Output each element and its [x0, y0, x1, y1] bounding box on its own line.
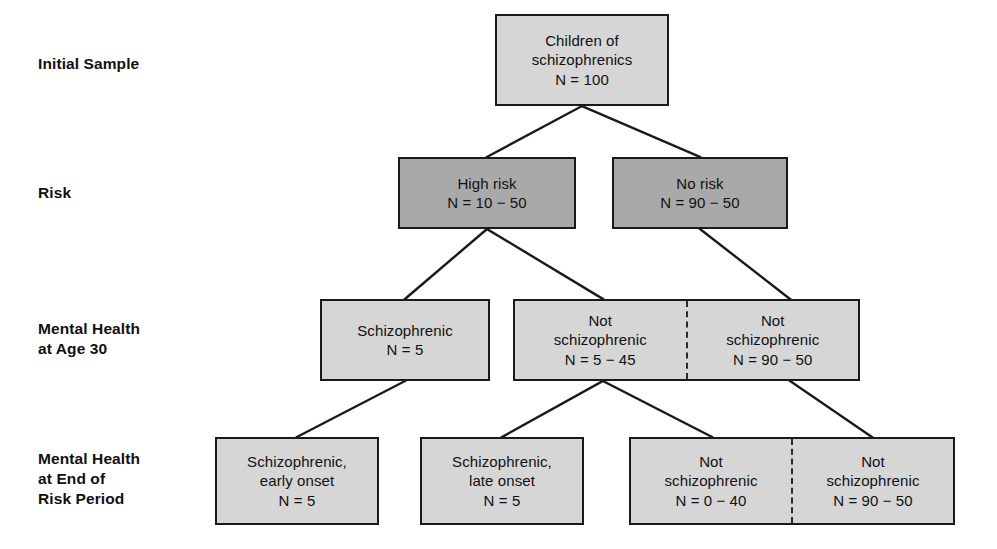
node-not-schizophrenic-age-30-left-label: Not schizophrenic N = 5 − 45 [554, 311, 647, 370]
node-high-risk[interactable]: High risk N = 10 − 50 [398, 157, 576, 229]
node-schizophrenic-age-30[interactable]: Schizophrenic N = 5 [320, 299, 490, 381]
link-high-risk-to-not-schiz30-left [487, 229, 603, 299]
node-schizophrenic-age-30-label: Schizophrenic N = 5 [357, 321, 453, 360]
node-not-schizophrenic-age-30-right-label: Not schizophrenic N = 90 − 50 [726, 311, 819, 370]
node-schizophrenic-early-onset-label: Schizophrenic, early onset N = 5 [247, 452, 347, 511]
node-initial-sample[interactable]: Children of schizophrenics N = 100 [495, 14, 669, 106]
node-not-schizophrenic-end-risk-left-label: Not schizophrenic N = 0 − 40 [664, 452, 757, 511]
node-schizophrenic-early-onset[interactable]: Schizophrenic, early onset N = 5 [215, 437, 379, 525]
node-not-schizophrenic-age-30-right[interactable]: Not schizophrenic N = 90 − 50 [686, 301, 859, 379]
node-not-schizophrenic-age-30[interactable]: Not schizophrenic N = 5 − 45 Not schizop… [513, 299, 860, 381]
link-high-risk-to-schizophrenic30 [405, 229, 487, 299]
link-not-schiz30-left-to-not-schiz-end-left [603, 381, 712, 437]
link-schizophrenic30-to-early-onset [297, 381, 405, 437]
node-not-schizophrenic-end-risk[interactable]: Not schizophrenic N = 0 − 40 Not schizop… [629, 437, 955, 525]
node-no-risk[interactable]: No risk N = 90 − 50 [612, 157, 788, 229]
node-high-risk-label: High risk N = 10 − 50 [447, 174, 527, 213]
node-not-schizophrenic-age-30-left[interactable]: Not schizophrenic N = 5 − 45 [515, 301, 686, 379]
node-schizophrenic-late-onset[interactable]: Schizophrenic, late onset N = 5 [420, 437, 584, 525]
node-not-schizophrenic-end-risk-right-label: Not schizophrenic N = 90 − 50 [826, 452, 919, 511]
node-not-schizophrenic-end-risk-right[interactable]: Not schizophrenic N = 90 − 50 [791, 439, 953, 523]
link-not-schiz30-right-to-not-schiz-end-right [790, 381, 872, 437]
link-initial-to-no-risk [582, 106, 700, 157]
node-no-risk-label: No risk N = 90 − 50 [660, 174, 740, 213]
node-not-schizophrenic-end-risk-left[interactable]: Not schizophrenic N = 0 − 40 [631, 439, 791, 523]
link-initial-to-high-risk [487, 106, 582, 157]
link-not-schiz30-left-to-late-onset [502, 381, 603, 437]
link-no-risk-to-not-schiz30-right [700, 229, 790, 299]
diagram-canvas: Initial Sample Risk Mental Health at Age… [0, 0, 997, 549]
node-initial-sample-label: Children of schizophrenics N = 100 [532, 31, 633, 90]
node-schizophrenic-late-onset-label: Schizophrenic, late onset N = 5 [452, 452, 552, 511]
